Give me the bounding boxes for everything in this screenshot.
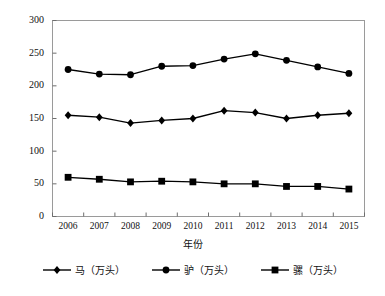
- data-point: [65, 111, 72, 119]
- data-point: [346, 186, 353, 193]
- data-point: [346, 70, 353, 77]
- legend-marker: [272, 266, 279, 273]
- x-axis-tick-label: 2012: [238, 221, 272, 231]
- y-axis-tick-label: 100: [14, 145, 44, 156]
- x-axis-tick-label: 2013: [270, 221, 304, 231]
- x-axis-tick-label: 2009: [145, 221, 179, 231]
- legend-label: 骡（万头）: [293, 262, 343, 277]
- y-axis-tick-label: 300: [14, 14, 44, 25]
- legend-item-1[interactable]: 马（万头）: [42, 262, 125, 277]
- data-point: [127, 119, 134, 127]
- chart-legend: 马（万头）驴（万头）骡（万头）: [0, 262, 385, 277]
- series-2: [65, 50, 353, 78]
- data-point: [65, 66, 72, 73]
- y-axis-tick-label: 50: [14, 177, 44, 188]
- legend-label: 驴（万头）: [184, 262, 234, 277]
- data-point: [96, 176, 103, 183]
- data-point: [283, 183, 290, 190]
- series-line: [68, 54, 349, 75]
- x-axis-tick-label: 2008: [114, 221, 148, 231]
- legend-item-3[interactable]: 骡（万头）: [260, 262, 343, 277]
- legend-circle-marker-icon: [151, 264, 181, 276]
- series-line: [68, 111, 349, 123]
- data-point: [346, 109, 353, 117]
- plot-area: [0, 0, 385, 296]
- legend-square-marker-icon: [260, 264, 290, 276]
- legend-diamond-marker-icon: [42, 264, 72, 276]
- y-axis-tick-label: 200: [14, 79, 44, 90]
- data-point: [221, 56, 228, 63]
- data-point: [127, 178, 134, 185]
- data-point: [65, 174, 72, 181]
- data-point: [96, 113, 103, 121]
- series-3: [65, 174, 353, 193]
- y-axis-tick-label: 250: [14, 47, 44, 58]
- data-point: [158, 178, 165, 185]
- data-point: [190, 178, 197, 185]
- data-point: [314, 63, 321, 70]
- series-line: [68, 177, 349, 189]
- legend-marker: [54, 266, 61, 274]
- x-axis-title: 年份: [0, 236, 385, 251]
- data-point: [283, 57, 290, 64]
- data-point: [127, 71, 134, 78]
- data-point: [252, 180, 259, 187]
- x-axis-tick-label: 2006: [51, 221, 85, 231]
- y-axis-tick-label: 150: [14, 112, 44, 123]
- data-point: [190, 115, 197, 123]
- data-point: [221, 107, 228, 115]
- x-axis-tick-label: 2015: [332, 221, 366, 231]
- x-axis-tick-label: 2010: [176, 221, 210, 231]
- data-point: [190, 62, 197, 69]
- data-point: [221, 180, 228, 187]
- data-point: [252, 109, 259, 117]
- x-axis-tick-label: 2007: [82, 221, 116, 231]
- data-point: [96, 71, 103, 78]
- legend-marker: [163, 266, 170, 273]
- y-axis-tick-label: 0: [14, 210, 44, 221]
- x-axis-tick-label: 2014: [301, 221, 335, 231]
- data-point: [252, 50, 259, 57]
- data-point: [314, 111, 321, 119]
- data-point: [158, 63, 165, 70]
- data-point: [314, 183, 321, 190]
- data-point: [158, 116, 165, 124]
- data-point: [283, 115, 290, 123]
- legend-label: 马（万头）: [75, 262, 125, 277]
- series-1: [65, 107, 353, 127]
- line-chart: 050100150200250300 200620072008200920102…: [0, 0, 385, 296]
- x-axis-tick-label: 2011: [207, 221, 241, 231]
- legend-item-2[interactable]: 驴（万头）: [151, 262, 234, 277]
